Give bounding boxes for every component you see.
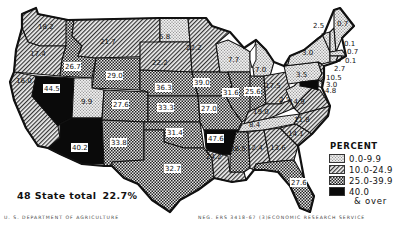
legend-title: PERCENT xyxy=(330,141,396,151)
label-wv: 2.5 xyxy=(279,96,290,104)
label-fl: 27.6 xyxy=(291,179,307,187)
label-ks: 33.3 xyxy=(158,104,174,112)
label-wa: 18.2 xyxy=(38,23,54,31)
label-ca: 16.0 xyxy=(16,77,32,85)
label-az: 40.2 xyxy=(72,144,88,152)
label-ar: 47.6 xyxy=(208,135,224,143)
label-ne: 36.3 xyxy=(156,84,172,92)
label-nm: 33.8 xyxy=(111,139,127,147)
label-ga: 13.6 xyxy=(270,144,286,152)
label-mi: 7.0 xyxy=(255,66,266,74)
state-sd xyxy=(140,42,192,72)
label-ok: 31.4 xyxy=(167,129,183,137)
label-nd: 5.8 xyxy=(159,33,170,41)
label-ia: 39.0 xyxy=(194,79,210,87)
label-wy: 29.0 xyxy=(107,72,123,80)
total-value: 22.7% xyxy=(103,190,138,201)
label-ky: 19.0 xyxy=(253,108,269,116)
solid-swatch-icon xyxy=(329,187,345,196)
legend-item-mid: 10.0-24.9 xyxy=(329,164,396,175)
label-nv: 44.5 xyxy=(44,85,60,93)
label-ri: 0.1 xyxy=(345,57,356,65)
label-al: 12.4 xyxy=(247,144,263,152)
checker-swatch-icon xyxy=(329,176,345,185)
label-ma: 0.7 xyxy=(347,48,358,56)
label-mt: 21.7 xyxy=(100,38,116,46)
label-or: 17.4 xyxy=(30,50,46,58)
label-ms: 38.5 xyxy=(230,145,246,153)
national-total: 48 State total22.7% xyxy=(17,190,137,201)
label-in: 25.6 xyxy=(245,88,261,96)
legend-item-low: 0.0-9.9 xyxy=(329,153,396,164)
label-me: 0.7 xyxy=(337,20,348,28)
label-tx: 32.7 xyxy=(165,165,181,173)
footer-service: ECONOMIC RESEARCH SERVICE xyxy=(268,215,365,220)
label-la: 24.2 xyxy=(206,153,222,161)
label-sc: 14.1 xyxy=(288,130,304,138)
label-ny: 3.0 xyxy=(302,49,313,57)
legend-item-top-sublabel: & over xyxy=(354,197,396,206)
label-va: 14.9 xyxy=(289,98,305,106)
label-id: 26.7 xyxy=(65,63,81,71)
label-il: 31.6 xyxy=(223,89,239,97)
label-vt: 2.5 xyxy=(313,22,324,30)
label-sd: 22.2 xyxy=(152,59,168,67)
legend: PERCENT 0.0-9.9 10.0-24.9 25.0-39.9 40.0… xyxy=(329,141,396,206)
label-md: 4.8 xyxy=(325,87,336,95)
footer-agency: U. S. DEPARTMENT OF AGRICULTURE xyxy=(4,215,119,220)
dots-swatch-icon xyxy=(329,154,345,163)
footer-negative-number: NEG. ERS 3418-67 (3) xyxy=(198,215,268,220)
legend-item-high: 25.0-39.9 xyxy=(329,175,396,186)
total-label: 48 State total xyxy=(17,190,97,201)
label-ct: 2.7 xyxy=(334,65,345,73)
label-pa: 3.5 xyxy=(296,71,307,79)
label-tn: 8.4 xyxy=(249,121,261,129)
label-co: 27.6 xyxy=(113,101,129,109)
hatch-swatch-icon xyxy=(329,165,345,174)
label-ut: 9.9 xyxy=(81,98,92,106)
label-mn: 22.2 xyxy=(186,44,202,52)
label-nc: 11.8 xyxy=(294,116,310,124)
label-mo: 27.0 xyxy=(201,105,217,113)
label-wi: 7.7 xyxy=(228,56,239,64)
label-oh: 17.5 xyxy=(265,82,281,90)
label-nh: 0.1 xyxy=(344,40,355,48)
